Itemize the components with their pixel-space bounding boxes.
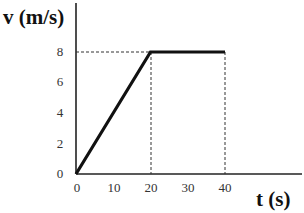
y-tick-2: 2 [57, 136, 64, 151]
x-tick-20: 20 [145, 180, 158, 195]
x-tick-30: 30 [182, 180, 195, 195]
y-tick-0: 0 [57, 166, 64, 181]
x-tick-10: 10 [108, 180, 121, 195]
x-axis-label: t (s) [256, 187, 290, 211]
y-tick-8: 8 [57, 44, 64, 59]
y-tick-labels: 0 2 4 6 8 [57, 44, 64, 181]
y-axis-label: v (m/s) [3, 5, 64, 29]
x-tick-0: 0 [74, 180, 81, 195]
velocity-time-chart: 0 2 4 6 8 0 10 20 30 40 v (m/s) t (s) [0, 0, 304, 213]
x-tick-40: 40 [219, 180, 232, 195]
y-tick-6: 6 [57, 74, 64, 89]
y-tick-4: 4 [57, 105, 64, 120]
x-tick-labels: 0 10 20 30 40 [74, 180, 232, 195]
